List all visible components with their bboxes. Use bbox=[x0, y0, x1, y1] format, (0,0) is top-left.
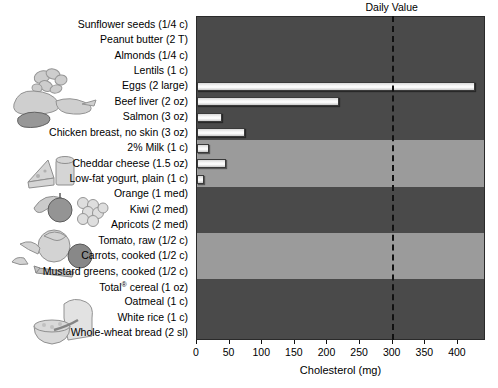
x-axis-tick bbox=[457, 340, 458, 344]
category-label: Kiwi (2 med) bbox=[130, 204, 188, 214]
x-axis-tick-label: 0 bbox=[193, 346, 199, 358]
category-label: Lentils (1 c) bbox=[134, 65, 188, 75]
bar bbox=[197, 82, 475, 91]
category-label: Total® cereal (1 oz) bbox=[99, 280, 188, 293]
x-axis-tick-label: 150 bbox=[285, 346, 303, 358]
x-axis-tick-label: 50 bbox=[223, 346, 235, 358]
bar bbox=[197, 128, 245, 137]
x-axis-tick bbox=[326, 340, 327, 344]
x-axis-tick bbox=[359, 340, 360, 344]
x-axis-tick bbox=[196, 340, 197, 344]
daily-value-line bbox=[392, 16, 394, 340]
category-label: 2% Milk (1 c) bbox=[127, 142, 188, 152]
x-axis-title: Cholesterol (mg) bbox=[196, 364, 485, 376]
category-label: Eggs (2 large) bbox=[122, 80, 188, 90]
category-label: Salmon (3 oz) bbox=[123, 111, 188, 121]
x-axis: 050100150200250300350400 bbox=[196, 340, 485, 341]
category-label: Almonds (1/4 c) bbox=[114, 50, 188, 60]
category-label: Low-fat yogurt, plain (1 c) bbox=[70, 173, 188, 183]
bars-layer bbox=[197, 17, 484, 339]
cholesterol-bar-chart: Sunflower seeds (1/4 c)Peanut butter (2 … bbox=[0, 0, 498, 388]
daily-value-label: Daily Value bbox=[366, 1, 418, 13]
category-label: Cheddar cheese (1.5 oz) bbox=[72, 158, 188, 168]
x-axis-tick-label: 350 bbox=[416, 346, 434, 358]
category-label: White rice (1 c) bbox=[117, 312, 188, 322]
plot-area bbox=[196, 16, 485, 340]
bar bbox=[197, 144, 209, 153]
category-label: Whole-wheat bread (2 sl) bbox=[71, 327, 188, 337]
x-axis-tick bbox=[392, 340, 393, 344]
x-axis-tick-label: 200 bbox=[318, 346, 336, 358]
category-label: Tomato, raw (1/2 c) bbox=[98, 235, 188, 245]
category-label: Chicken breast, no skin (3 oz) bbox=[49, 127, 188, 137]
x-axis-tick-label: 400 bbox=[448, 346, 466, 358]
category-label: Peanut butter (2 T) bbox=[100, 34, 188, 44]
x-axis-tick-label: 100 bbox=[252, 346, 270, 358]
x-axis-tick bbox=[261, 340, 262, 344]
category-label: Orange (1 med) bbox=[114, 188, 188, 198]
bar bbox=[197, 159, 226, 168]
bar bbox=[197, 175, 204, 184]
category-label: Mustard greens, cooked (1/2 c) bbox=[43, 266, 188, 276]
category-label: Sunflower seeds (1/4 c) bbox=[78, 19, 188, 29]
category-label: Beef liver (2 oz) bbox=[114, 96, 188, 106]
x-axis-tick bbox=[229, 340, 230, 344]
x-axis-tick bbox=[424, 340, 425, 344]
category-label: Carrots, cooked (1/2 c) bbox=[81, 250, 188, 260]
category-label: Apricots (2 med) bbox=[111, 219, 188, 229]
category-label: Oatmeal (1 c) bbox=[124, 296, 188, 306]
grain-illustration bbox=[30, 296, 110, 346]
x-axis-tick bbox=[294, 340, 295, 344]
x-axis-tick-label: 250 bbox=[350, 346, 368, 358]
x-axis-tick-label: 300 bbox=[383, 346, 401, 358]
bar bbox=[197, 97, 339, 106]
bar bbox=[197, 113, 222, 122]
